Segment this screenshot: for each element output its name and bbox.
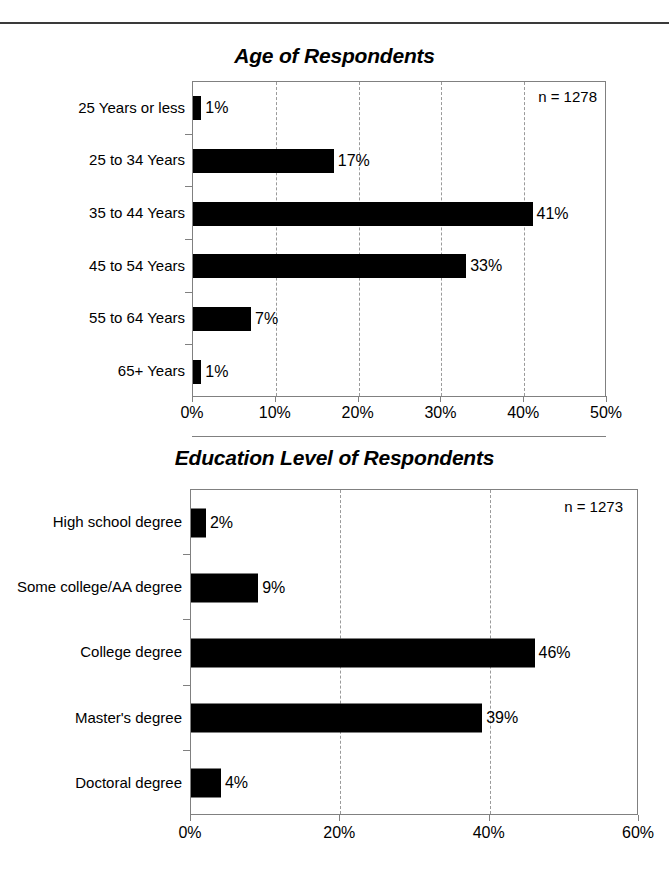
y-axis-tick-education-0 xyxy=(183,554,190,555)
y-axis-label-text: Master's degree xyxy=(75,709,182,726)
bar-value-education-0: 2% xyxy=(206,515,233,531)
y-axis-label-age-2: 35 to 44 Years xyxy=(0,186,185,239)
x-axis-label-age-3: 30% xyxy=(405,405,475,421)
y-axis-label-education-2: College degree xyxy=(0,619,182,684)
x-axis-tick-age-2 xyxy=(358,396,359,402)
chart-title-age: Age of Respondents xyxy=(0,44,669,68)
y-axis-label-text: 55 to 64 Years xyxy=(89,309,185,326)
y-axis-label-text: 25 to 34 Years xyxy=(89,151,185,168)
y-axis-label-text: Some college/AA degree xyxy=(17,578,182,595)
bar-value-education-2: 46% xyxy=(535,645,571,661)
x-axis-label-education-3: 60% xyxy=(603,825,669,841)
y-axis-tick-age-2 xyxy=(185,239,192,240)
bar-value-education-4: 4% xyxy=(221,775,248,791)
y-axis-tick-education-2 xyxy=(183,685,190,686)
x-axis-tick-age-0 xyxy=(192,396,193,402)
y-axis-label-education-4: Doctoral degree xyxy=(0,750,182,815)
plot-area-age: n = 1278 1% 17% 41% 33% 7% 1% xyxy=(192,81,606,397)
bar-value-age-5: 1% xyxy=(201,364,228,380)
y-axis-label-age-3: 45 to 54 Years xyxy=(0,239,185,292)
y-axis-tick-education-3 xyxy=(183,750,190,751)
x-axis-label-age-5: 50% xyxy=(571,405,641,421)
x-axis-tick-education-1 xyxy=(339,815,340,821)
bar-value-education-3: 39% xyxy=(482,710,518,726)
bar-row-age-2: 41% xyxy=(193,187,605,240)
y-axis-tick-age-4 xyxy=(185,344,192,345)
y-axis-label-text: High school degree xyxy=(53,513,182,530)
x-axis-label-education-1: 20% xyxy=(304,825,374,841)
y-axis-label-text: 65+ Years xyxy=(118,362,185,379)
x-axis-tick-age-3 xyxy=(440,396,441,402)
bar-row-age-0: 1% xyxy=(193,82,605,135)
x-axis-label-education-2: 40% xyxy=(454,825,524,841)
y-axis-label-education-1: Some college/AA degree xyxy=(0,554,182,619)
bar-row-education-0: 2% xyxy=(191,490,637,555)
bar-education-2 xyxy=(191,638,535,667)
x-axis-tick-age-1 xyxy=(275,396,276,402)
y-axis-label-text: 35 to 44 Years xyxy=(89,204,185,221)
bar-value-age-4: 7% xyxy=(251,311,278,327)
y-axis-label-education-3: Master's degree xyxy=(0,685,182,750)
bar-row-age-1: 17% xyxy=(193,135,605,188)
bar-row-age-4: 7% xyxy=(193,293,605,346)
bar-row-education-4: 4% xyxy=(191,751,637,816)
bar-education-4 xyxy=(191,769,221,798)
chart-age-of-respondents: Age of Respondents 25 Years or less 25 t… xyxy=(0,40,669,440)
y-axis-tick-age-3 xyxy=(185,292,192,293)
bar-age-4 xyxy=(193,307,251,331)
page-divider-rule xyxy=(0,22,669,24)
y-axis-label-age-5: 65+ Years xyxy=(0,344,185,397)
bar-value-age-1: 17% xyxy=(334,153,370,169)
x-axis-tick-education-2 xyxy=(489,815,490,821)
x-axis-tick-age-4 xyxy=(523,396,524,402)
x-axis-label-education-0: 0% xyxy=(155,825,225,841)
bar-age-3 xyxy=(193,254,466,278)
bar-value-age-0: 1% xyxy=(201,100,228,116)
x-axis-label-age-4: 40% xyxy=(488,405,558,421)
bar-value-age-2: 41% xyxy=(533,206,569,222)
x-axis-label-age-1: 10% xyxy=(240,405,310,421)
x-axis-tick-education-0 xyxy=(190,815,191,821)
bar-value-age-3: 33% xyxy=(466,258,502,274)
bar-row-education-2: 46% xyxy=(191,620,637,685)
y-axis-tick-age-1 xyxy=(185,186,192,187)
x-axis-label-age-2: 20% xyxy=(323,405,393,421)
bar-row-age-5: 1% xyxy=(193,345,605,398)
bar-education-3 xyxy=(191,704,482,733)
y-axis-label-text: 45 to 54 Years xyxy=(89,257,185,274)
y-axis-label-age-0: 25 Years or less xyxy=(0,81,185,134)
y-axis-label-text: College degree xyxy=(80,643,182,660)
bar-age-1 xyxy=(193,149,334,173)
bar-row-education-3: 39% xyxy=(191,686,637,751)
bar-age-5 xyxy=(193,360,201,384)
chart-title-education: Education Level of Respondents xyxy=(0,446,669,470)
bar-age-0 xyxy=(193,96,201,120)
bar-education-1 xyxy=(191,573,258,602)
bar-row-age-3: 33% xyxy=(193,240,605,293)
bar-education-0 xyxy=(191,508,206,537)
chart-education-level-of-respondents: Education Level of Respondents High scho… xyxy=(0,444,669,885)
y-axis-label-text: 25 Years or less xyxy=(78,99,185,116)
bar-row-education-1: 9% xyxy=(191,555,637,620)
y-axis-tick-age-0 xyxy=(185,134,192,135)
y-axis-tick-education-1 xyxy=(183,619,190,620)
y-axis-label-education-0: High school degree xyxy=(0,489,182,554)
bar-age-2 xyxy=(193,202,533,226)
x-axis-tick-age-5 xyxy=(606,396,607,402)
y-axis-label-text: Doctoral degree xyxy=(75,774,182,791)
x-axis-tick-education-3 xyxy=(638,815,639,821)
y-axis-label-age-4: 55 to 64 Years xyxy=(0,292,185,345)
plot-area-education: n = 1273 2% 9% 46% 39% 4% xyxy=(190,489,638,815)
bar-value-education-1: 9% xyxy=(258,580,285,596)
x-axis-line-age xyxy=(192,436,606,437)
x-axis-label-age-0: 0% xyxy=(157,405,227,421)
y-axis-label-age-1: 25 to 34 Years xyxy=(0,134,185,187)
